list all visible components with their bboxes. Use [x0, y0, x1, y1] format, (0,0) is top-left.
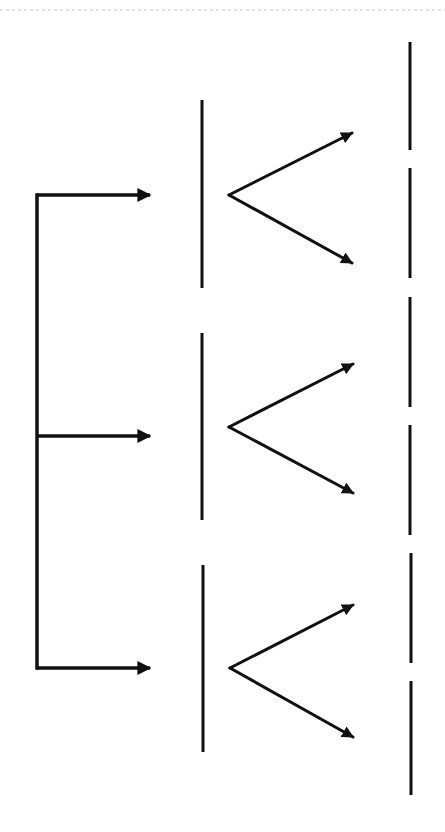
fork-1-lower-arrow [229, 195, 352, 263]
fork-2-upper-arrow [229, 364, 353, 427]
fork-3-lower-arrow [230, 668, 353, 737]
branch-arrows [37, 195, 150, 668]
middle-bars [202, 100, 203, 752]
branching-diagram [0, 0, 445, 832]
fork-3-upper-arrow [230, 605, 353, 668]
right-bars [410, 42, 411, 795]
diagram-canvas [0, 0, 445, 832]
fork-1-upper-arrow [229, 133, 352, 195]
fork-2-lower-arrow [229, 427, 353, 493]
fork-arrows [229, 133, 353, 737]
